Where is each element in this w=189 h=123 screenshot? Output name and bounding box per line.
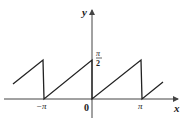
pi-over-2-denominator: 2 [96, 59, 100, 68]
x-axis-label: x [173, 102, 180, 114]
pos-pi-tick-label: π [138, 101, 143, 111]
neg-pi-tick-label: −π [36, 101, 47, 111]
origin-label: 0 [84, 102, 89, 113]
pi-over-2-numerator: π [96, 49, 101, 58]
sawtooth-line [13, 60, 163, 99]
y-axis-label: y [80, 6, 87, 18]
sawtooth-chart: y x 0 −π π π 2 [0, 0, 189, 123]
